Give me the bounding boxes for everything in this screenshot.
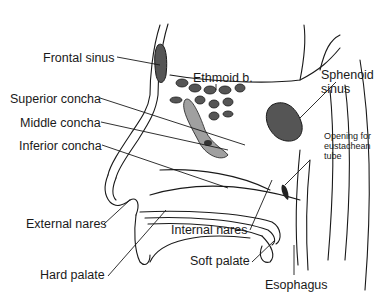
label-middle-concha: Middle concha [20,116,101,130]
label-internal-nares: Internal nares [171,223,247,237]
nasal-cavity-diagram: Frontal sinus Ethmoid b. Sphenoid sinus … [0,0,388,302]
label-external-nares: External nares [26,217,107,231]
label-opening-line3: tube [324,151,342,161]
label-inferior-concha: Inferior concha [19,139,102,153]
label-sphenoid-line2: sinus [321,82,350,96]
label-frontal-sinus: Frontal sinus [43,51,115,65]
label-superior-concha: Superior concha [10,92,101,106]
label-soft-palate: Soft palate [190,254,250,268]
label-opening-line1: Opening for [324,131,371,141]
label-ethmoid: Ethmoid b. [193,71,253,85]
label-esophagus: Esophagus [265,278,328,292]
label-hard-palate: Hard palate [40,268,105,282]
label-opening-line2: eustachean [324,141,371,151]
label-sphenoid-line1: Sphenoid [321,68,374,82]
